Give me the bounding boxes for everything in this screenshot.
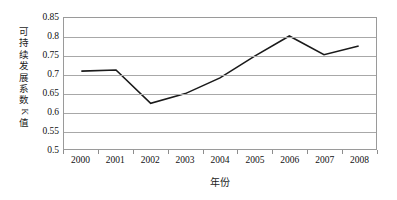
y-axis-tick-label: 0.85 [30, 12, 62, 22]
x-axis-tick-mark [63, 150, 64, 154]
x-axis-tick-label: 2000 [71, 155, 90, 165]
gridline [64, 56, 376, 57]
x-axis-tick-mark [168, 150, 169, 154]
x-axis-tick-label: 2006 [280, 155, 299, 165]
x-axis-tick-mark [272, 150, 273, 154]
gridline [64, 113, 376, 114]
y-axis-tick-label: 0.55 [30, 126, 62, 136]
x-axis-tick-label: 2001 [106, 155, 125, 165]
x-axis-tick-mark [377, 150, 378, 154]
x-axis-tick-mark [98, 150, 99, 154]
y-axis-tick-label: 0.75 [30, 50, 62, 60]
y-axis-tick-label: 0.65 [30, 88, 62, 98]
x-axis-tick-label: 2008 [350, 155, 369, 165]
x-axis-tick-mark [342, 150, 343, 154]
x-axis-tick-label: 2007 [315, 155, 334, 165]
y-axis-tick-label: 0.7 [30, 69, 62, 79]
gridline [64, 94, 376, 95]
y-axis-tick-label: 0.6 [30, 107, 62, 117]
x-axis-title: 年份 [63, 174, 377, 189]
x-axis-tick-mark [203, 150, 204, 154]
x-axis-tick-label: 2005 [245, 155, 264, 165]
x-axis-tick-mark [133, 150, 134, 154]
y-axis-tick-label: 0.5 [30, 145, 62, 155]
x-axis-tick-mark [237, 150, 238, 154]
chart-screenshot: 可 持 续 发 展 系 数 K 值 0.850.80.750.70.650.60… [0, 0, 397, 200]
x-axis-tick-mark [307, 150, 308, 154]
gridline [64, 132, 376, 133]
x-axis-tick-label: 2003 [176, 155, 195, 165]
x-axis-tick-label: 2004 [211, 155, 230, 165]
y-axis-tick-labels: 0.850.80.750.70.650.60.550.5 [30, 0, 62, 200]
y-axis-tick-label: 0.8 [30, 31, 62, 41]
y-axis-title-k-char: K [18, 104, 29, 120]
x-axis-tick-label: 2002 [141, 155, 160, 165]
gridline [64, 37, 376, 38]
plot-area [63, 17, 377, 150]
gridline [64, 75, 376, 76]
